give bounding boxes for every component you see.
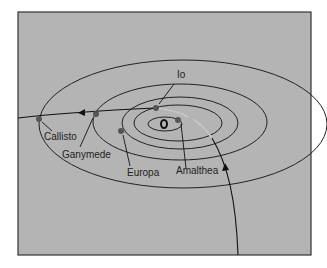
label-ganymede: Ganymede — [62, 149, 111, 160]
label-europa: Europa — [127, 167, 160, 178]
label-callisto: Callisto — [44, 131, 77, 142]
moon-callisto — [36, 116, 42, 122]
label-io: Io — [177, 69, 186, 80]
moon-amalthea — [175, 117, 181, 123]
moon-io — [153, 105, 159, 111]
label-amalthea: Amalthea — [176, 165, 219, 176]
moon-europa — [118, 128, 124, 134]
moon-ganymede — [93, 111, 99, 117]
orbit-diagram: Io Callisto Ganymede Europa Amalthea — [0, 0, 327, 268]
